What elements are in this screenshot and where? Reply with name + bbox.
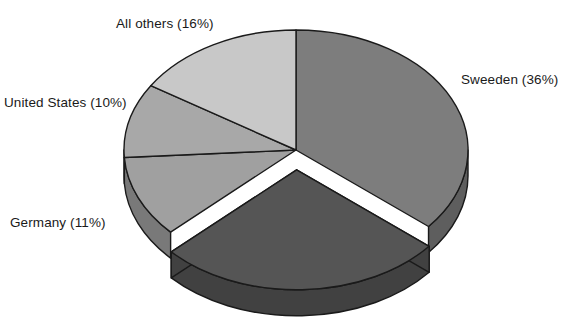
- pie-chart: All others (16%) Sweeden (36%) United St…: [0, 0, 570, 332]
- pie-label-all-others: All others (16%): [116, 16, 214, 31]
- pie-label-germany: Germany (11%): [10, 215, 106, 230]
- pie-chart-graphic: [0, 0, 570, 332]
- pie-label-united-states: United States (10%): [4, 95, 127, 110]
- pie-label-sweeden: Sweeden (36%): [461, 72, 558, 87]
- pie-slice-faces: [124, 30, 468, 290]
